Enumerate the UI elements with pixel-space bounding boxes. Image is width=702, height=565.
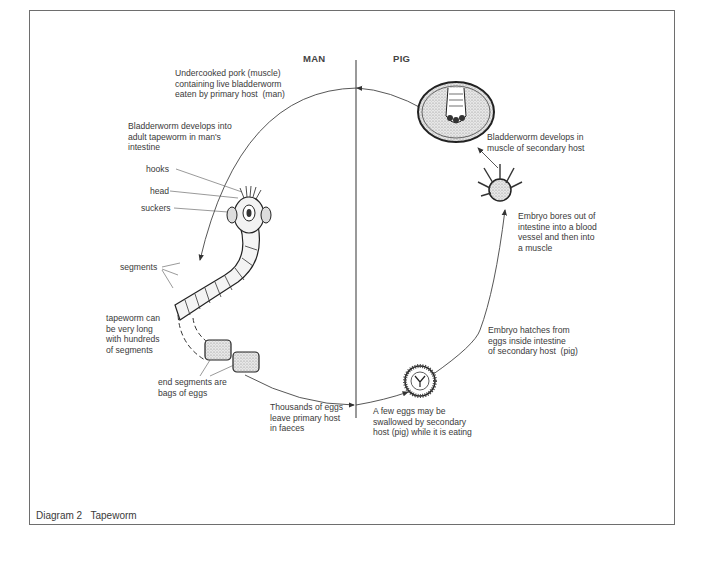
label-segments: segments bbox=[120, 262, 157, 273]
arrow-to-tapeworm bbox=[200, 88, 357, 260]
arrow-to-man bbox=[357, 88, 425, 110]
column-header-pig: PIG bbox=[393, 53, 410, 64]
label-suckers: suckers bbox=[141, 203, 171, 214]
caption-title: Tapeworm bbox=[90, 510, 136, 521]
label-embryo-bores: Embryo bores out of intestine into a blo… bbox=[518, 211, 597, 253]
label-embryo-hatches: Embryo hatches from eggs inside intestin… bbox=[488, 325, 578, 357]
bladderworm-cyst bbox=[418, 82, 494, 142]
lifecycle-illustration bbox=[0, 0, 702, 565]
arrow-eggs-leave bbox=[245, 375, 354, 405]
label-long-note: tapeworm can be very long with hundreds … bbox=[106, 313, 160, 355]
tapeworm-egg bbox=[405, 366, 435, 396]
column-header-man: MAN bbox=[303, 53, 326, 64]
embryo-larva bbox=[478, 164, 522, 201]
label-bladderworm-muscle: Bladderworm develops in muscle of second… bbox=[487, 132, 584, 153]
label-end-segments: end segments are bags of eggs bbox=[158, 377, 227, 398]
arrow-to-egg bbox=[356, 392, 408, 405]
label-eggs-swallowed: A few eggs may be swallowed by secondary… bbox=[373, 406, 472, 438]
label-develops-adult: Bladderworm develops into adult tapeworm… bbox=[128, 121, 232, 153]
caption-number: Diagram 2 bbox=[36, 510, 82, 521]
label-eggs-leave: Thousands of eggs leave primary host in … bbox=[270, 402, 343, 434]
label-head: head bbox=[150, 186, 169, 197]
label-hooks: hooks bbox=[146, 164, 169, 175]
diagram-caption: Diagram 2 Tapeworm bbox=[36, 510, 137, 521]
adult-tapeworm bbox=[175, 186, 271, 372]
label-eaten: Undercooked pork (muscle) containing liv… bbox=[175, 68, 285, 100]
